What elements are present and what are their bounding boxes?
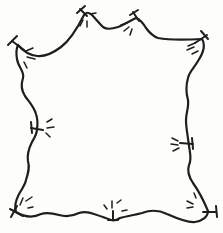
- stress-ray: [172, 138, 178, 141]
- stake-mark-top-left-corner: [8, 36, 35, 68]
- hide-outline: [15, 13, 208, 222]
- staked-hide-drawing: [0, 0, 223, 233]
- stress-ray: [46, 133, 50, 137]
- illustration-page: [0, 0, 223, 233]
- hide-drawing-canvas: [0, 0, 223, 233]
- stress-ray: [104, 205, 107, 209]
- stress-ray: [27, 57, 35, 59]
- stress-ray: [130, 29, 132, 35]
- stress-ray: [47, 127, 54, 128]
- stress-ray: [28, 207, 33, 208]
- stake-stem: [31, 128, 43, 130]
- stress-ray: [26, 48, 33, 51]
- stress-ray: [20, 198, 23, 205]
- stress-ray: [124, 27, 129, 31]
- stake-crossbar: [192, 138, 193, 149]
- stress-ray: [187, 207, 193, 208]
- stress-ray: [24, 62, 27, 68]
- stress-ray: [117, 200, 121, 203]
- stake-mark-left-middle: [31, 119, 54, 137]
- stake-stem: [12, 41, 24, 50]
- stress-ray: [192, 51, 198, 54]
- stress-ray: [188, 43, 195, 46]
- stress-ray: [90, 13, 96, 14]
- stress-ray: [187, 47, 194, 50]
- stake-mark-top-bump-right: [121, 10, 139, 35]
- stake-crossbar: [31, 122, 32, 133]
- stress-ray: [26, 197, 32, 201]
- stress-ray: [122, 210, 127, 211]
- stress-ray: [121, 23, 127, 25]
- stake-mark-top-right-corner: [187, 31, 208, 54]
- stake-stem: [180, 143, 193, 144]
- stress-ray: [187, 201, 193, 204]
- stress-ray: [173, 148, 179, 151]
- stress-ray: [47, 119, 52, 122]
- stake-crossbar: [216, 206, 217, 217]
- stress-ray: [171, 144, 178, 145]
- stress-ray: [194, 193, 196, 198]
